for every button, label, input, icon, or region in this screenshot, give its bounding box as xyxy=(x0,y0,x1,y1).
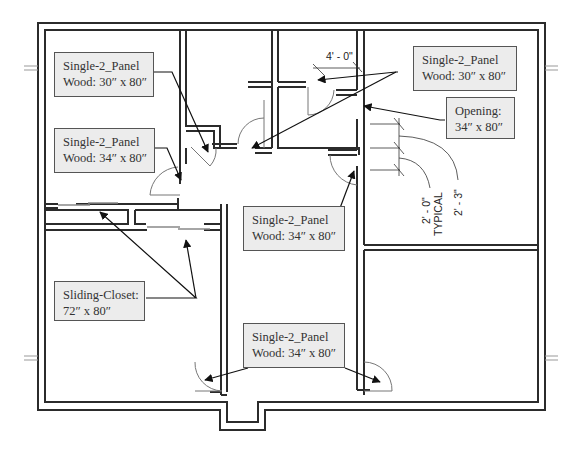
door-tag-34x80-center: Single-2_Panel Wood: 34″ x 80″ xyxy=(243,206,345,251)
tag-size: Wood: 34″ x 80″ xyxy=(63,150,146,166)
tag-type: Opening: xyxy=(455,103,506,119)
dimension-typical-note: TYPICAL xyxy=(432,192,444,236)
tag-size: Wood: 30″ x 80″ xyxy=(422,68,508,84)
tag-size: Wood: 34″ x 80″ xyxy=(252,228,336,244)
dimension-4-0: 4' - 0" xyxy=(326,50,353,62)
door-tag-30x80-right: Single-2_Panel Wood: 30″ x 80″ xyxy=(413,46,517,91)
door-tag-34x80-bottom: Single-2_Panel Wood: 34″ x 80″ xyxy=(243,323,345,368)
tag-type: Single-2_Panel xyxy=(63,58,145,74)
tag-type: Single-2_Panel xyxy=(63,134,146,150)
tag-type: Single-2_Panel xyxy=(422,52,508,68)
dimension-2-3: 2' - 3" xyxy=(452,189,464,216)
tag-type: Single-2_Panel xyxy=(252,329,336,345)
dimension-2-0: 2' - 0" xyxy=(420,197,432,224)
sliding-closet-tag: Sliding-Closet: 72″ x 80″ xyxy=(54,281,145,321)
tag-size: 72″ x 80″ xyxy=(63,303,136,319)
tag-type: Single-2_Panel xyxy=(252,212,336,228)
tag-type: Sliding-Closet: xyxy=(63,287,136,303)
tag-size: Wood: 34″ x 80″ xyxy=(252,345,336,361)
door-tag-30x80-left: Single-2_Panel Wood: 30″ x 80″ xyxy=(54,52,154,97)
opening-tag: Opening: 34″ x 80″ xyxy=(446,97,515,139)
tag-size: 34″ x 80″ xyxy=(455,119,506,135)
tag-size: Wood: 30″ x 80″ xyxy=(63,74,145,90)
door-tag-34x80-left: Single-2_Panel Wood: 34″ x 80″ xyxy=(54,128,155,173)
